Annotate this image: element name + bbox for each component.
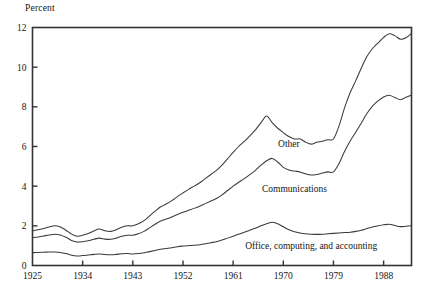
y-tick-label: 8	[22, 102, 27, 112]
x-axis-ticks: 19251934194319521961197019791988	[23, 261, 393, 281]
x-tick-label: 1961	[224, 271, 243, 281]
y-tick-label: 0	[22, 261, 27, 271]
series-annotation-label: Communications	[262, 184, 327, 194]
series-annotation-label: Office, computing, and accounting	[245, 241, 377, 251]
series-boundary-line	[33, 95, 412, 242]
x-tick-label: 1934	[73, 271, 92, 281]
plot-frame	[33, 28, 412, 266]
y-tick-label: 12	[17, 23, 27, 33]
y-tick-label: 10	[17, 63, 27, 73]
chart-container: Percent 024681012 1925193419431952196119…	[0, 0, 422, 300]
x-tick-label: 1970	[274, 271, 293, 281]
plot-border	[33, 28, 412, 266]
chart-svg: 024681012 192519341943195219611970197919…	[0, 0, 422, 300]
series-annotation-label: Other	[278, 139, 300, 149]
x-tick-label: 1988	[374, 271, 393, 281]
series-boundary-line	[33, 222, 412, 256]
x-tick-label: 1925	[23, 271, 42, 281]
x-tick-label: 1979	[324, 271, 343, 281]
x-tick-label: 1943	[123, 271, 142, 281]
y-tick-label: 4	[22, 182, 27, 192]
y-tick-label: 6	[22, 142, 27, 152]
series-boundaries	[33, 33, 412, 256]
x-tick-label: 1952	[173, 271, 192, 281]
y-tick-label: 2	[22, 221, 27, 231]
y-axis-ticks: 024681012	[17, 23, 38, 271]
